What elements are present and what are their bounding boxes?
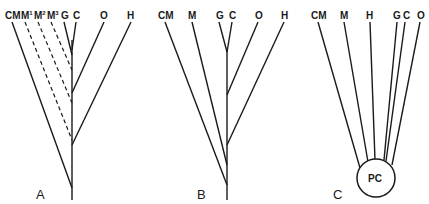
- taxon-label: CM: [5, 10, 21, 21]
- panel-c-tree: PC CM M H G C O C: [311, 10, 425, 202]
- taxon-label: M: [340, 10, 348, 21]
- root-label: PC: [368, 173, 382, 184]
- panel-a-tree: CM M1 M2 M3 G C O H A: [5, 10, 134, 202]
- taxon-label: H: [127, 10, 134, 21]
- taxon-label: M1: [21, 10, 33, 21]
- taxon-label: O: [100, 10, 108, 21]
- panel-b-tree: CM M G C O H B: [158, 10, 288, 202]
- panel-label-a: A: [36, 187, 45, 202]
- taxon-label: G: [61, 10, 69, 21]
- taxon-label: M3: [47, 10, 59, 21]
- taxon-label: C: [73, 10, 80, 21]
- taxon-label: G: [216, 10, 224, 21]
- taxon-label: M: [188, 10, 196, 21]
- taxon-label: O: [417, 10, 425, 21]
- taxon-label: H: [281, 10, 288, 21]
- phylogeny-figure: CM M1 M2 M3 G C O H A CM M G C O H B PC …: [0, 0, 429, 204]
- taxon-label: C: [229, 10, 236, 21]
- taxon-label: CM: [311, 10, 327, 21]
- taxon-label: M2: [34, 10, 46, 21]
- taxon-label: H: [366, 10, 373, 21]
- taxon-label: O: [255, 10, 263, 21]
- panel-label-b: B: [197, 187, 206, 202]
- taxon-label: C: [403, 10, 410, 21]
- panel-label-c: C: [333, 187, 342, 202]
- taxon-label: CM: [158, 10, 174, 21]
- taxon-label: G: [393, 10, 401, 21]
